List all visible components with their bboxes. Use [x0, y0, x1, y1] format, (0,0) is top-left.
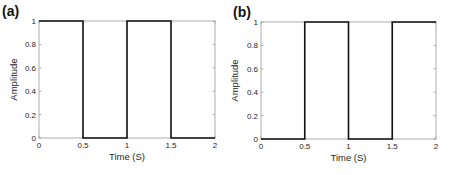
panel-label: (b): [233, 4, 251, 20]
x-axis-label: Time (S): [330, 152, 366, 163]
x-tick-label: 0.5: [77, 141, 89, 150]
x-tick-label: 1: [346, 142, 351, 151]
x-tick-label: 2: [434, 142, 439, 151]
x-axis-label: Time (S): [109, 151, 145, 162]
y-axis-label: Amplitude: [8, 58, 19, 100]
y-tick-label: 0.8: [247, 41, 259, 50]
x-tick-label: 0: [37, 141, 42, 150]
y-tick-label: 0.8: [25, 40, 37, 49]
x-tick-label: 1.5: [387, 142, 399, 151]
y-tick-label: 1: [32, 17, 37, 26]
x-tick-label: 1.5: [165, 141, 177, 150]
chart-panel-a: 00.20.40.60.8100.511.52Time (S)Amplitude…: [2, 3, 218, 162]
y-axis-label: Amplitude: [229, 59, 240, 101]
y-tick-label: 0.4: [247, 88, 259, 97]
y-tick-label: 0.6: [247, 65, 259, 74]
y-tick-label: 1: [254, 18, 259, 27]
chart-panel-b: 00.20.40.60.8100.511.52Time (S)Amplitude…: [229, 4, 439, 163]
x-tick-label: 0.5: [299, 142, 311, 151]
x-tick-label: 1: [125, 141, 130, 150]
x-tick-label: 0: [259, 142, 264, 151]
y-tick-label: 0.2: [247, 112, 259, 121]
y-tick-label: 0.2: [25, 111, 37, 120]
y-tick-label: 0.6: [25, 64, 37, 73]
x-tick-label: 2: [213, 141, 218, 150]
y-tick-label: 0.4: [25, 87, 37, 96]
panel-label: (a): [2, 3, 19, 19]
figure: 00.20.40.60.8100.511.52Time (S)Amplitude…: [0, 0, 451, 175]
